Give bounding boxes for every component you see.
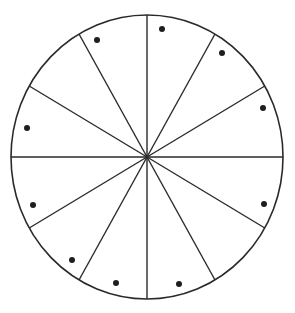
sector-dot-210-240: [69, 257, 75, 263]
sector-dividers: [11, 15, 283, 299]
sector-dot-240-270: [113, 280, 119, 286]
divided-circle-diagram: [0, 0, 295, 313]
sector-dot-180-210: [30, 202, 36, 208]
sector-dot-150-180: [24, 125, 30, 131]
sector-dot-270-300: [176, 281, 182, 287]
sector-dot-90-120: [94, 37, 100, 43]
sector-dot-30-60: [219, 50, 225, 56]
sector-dot-330-360: [261, 201, 267, 207]
sector-dot-60-90: [159, 26, 165, 32]
sector-dot-0-30: [260, 105, 266, 111]
